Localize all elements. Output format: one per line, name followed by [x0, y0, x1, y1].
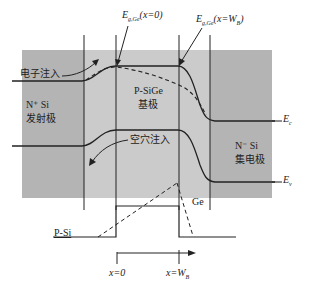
base-label-1: P-SiGe — [134, 86, 163, 96]
p-si-label: P-Si — [54, 228, 71, 238]
ev-label: Ev — [283, 175, 292, 187]
x0-label: x=0 — [109, 268, 125, 278]
hole-injection-label: 空穴注入 — [130, 135, 170, 145]
collector-region — [210, 50, 272, 198]
collector-label-1: N⁻ Si — [235, 141, 258, 151]
base-label-2: 基极 — [138, 100, 158, 110]
collector-label-2: 集电极 — [235, 155, 265, 165]
electron-injection-label: 电子注入 — [20, 69, 60, 79]
ge-label: Ge — [192, 197, 204, 207]
eg-ge-xwb-label: Eg,Ge(x=WB) — [196, 14, 243, 26]
arrowhead-icon — [188, 250, 196, 256]
emitter-label-1: N⁺ Si — [26, 100, 49, 110]
base-region — [84, 50, 210, 198]
ec-label: Ec — [283, 114, 292, 126]
xwb-label: x=WB — [166, 268, 189, 280]
eg-ge-x0-label: Eg,Ge(x=0) — [122, 10, 162, 22]
ge-profile-line — [53, 206, 236, 237]
emitter-label-2: 发射极 — [26, 114, 56, 124]
